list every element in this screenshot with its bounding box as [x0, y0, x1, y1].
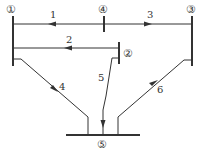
branch-6	[118, 60, 192, 135]
branch-3-label: 3	[147, 9, 153, 20]
branch-4-label: 4	[59, 81, 65, 92]
branch-6-label: 6	[157, 84, 163, 95]
arrow-icon	[101, 120, 106, 128]
node-1-label: ①	[6, 3, 16, 16]
arrow-icon	[144, 22, 152, 27]
network-diagram: ① ② ③ ④ ⑤ 1 2 3 4 5 6	[0, 0, 200, 158]
node-3-label: ③	[186, 3, 196, 16]
branch-5	[103, 58, 119, 135]
branch-5-label: 5	[98, 72, 104, 83]
branch-1-label: 1	[50, 9, 56, 20]
arrow-icon	[64, 46, 72, 51]
branch-4	[13, 59, 88, 135]
branch-2-label: 2	[66, 34, 72, 45]
arrow-icon	[50, 85, 58, 92]
node-5-label: ⑤	[97, 138, 107, 151]
node-4-label: ④	[98, 3, 108, 16]
arrow-icon	[48, 22, 56, 27]
node-2-label: ②	[123, 47, 133, 60]
